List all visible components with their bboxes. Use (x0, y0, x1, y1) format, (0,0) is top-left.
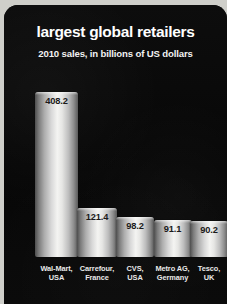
bar-top-highlight (35, 92, 78, 95)
chart-panel: largest global retailers 2010 sales, in … (4, 5, 227, 304)
plot-area: 408.2Wal-Mart,USA121.4Carrefour,France98… (4, 5, 227, 304)
category-company: Tesco, (198, 264, 220, 273)
bar-cvs: 98.2 (116, 217, 154, 257)
bar-tesco: 90.2 (190, 221, 227, 257)
bar-value-label: 98.2 (116, 221, 154, 232)
bar-metro-ag: 91.1 (154, 220, 192, 257)
bar-top-highlight (190, 221, 227, 224)
bar-wal-mart: 408.2 (35, 92, 78, 257)
bar-top-highlight (116, 217, 154, 220)
category-country: UK (173, 273, 227, 282)
bar-value-label: 408.2 (35, 96, 78, 107)
bar-top-highlight (77, 208, 117, 211)
bar-value-label: 90.2 (190, 225, 227, 236)
bar-top-highlight (154, 220, 192, 223)
x-axis-label-tesco: Tesco,UK (173, 264, 227, 282)
bar-value-label: 91.1 (154, 224, 192, 235)
chart-figure: largest global retailers 2010 sales, in … (0, 0, 227, 304)
bar-carrefour: 121.4 (77, 208, 117, 257)
bar-value-label: 121.4 (77, 212, 117, 223)
